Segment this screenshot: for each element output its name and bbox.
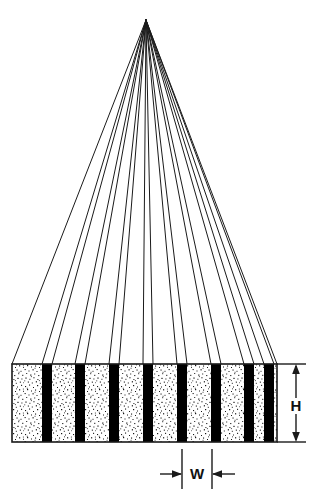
height-arrowhead-up bbox=[292, 364, 300, 374]
ray-line bbox=[146, 20, 277, 364]
ray-line bbox=[146, 20, 254, 364]
dark-stripe bbox=[211, 364, 221, 442]
dark-stripe bbox=[109, 364, 119, 442]
ray-line bbox=[146, 20, 211, 364]
width-dimension: W bbox=[160, 449, 235, 489]
ray-line bbox=[75, 20, 146, 364]
width-arrowhead-left bbox=[212, 470, 222, 477]
dark-stripe bbox=[244, 364, 254, 442]
dark-stripe bbox=[75, 364, 85, 442]
width-dimension-label: W bbox=[190, 465, 205, 482]
ray-line bbox=[146, 20, 177, 364]
ray-line bbox=[146, 20, 244, 364]
dark-stripe bbox=[143, 364, 153, 442]
height-dimension-label: H bbox=[291, 397, 302, 414]
ray-line bbox=[52, 20, 146, 364]
convergent-ray-fan bbox=[12, 20, 277, 364]
height-dimension: H bbox=[277, 364, 306, 442]
height-arrowhead-down bbox=[292, 432, 300, 442]
ray-line bbox=[146, 20, 264, 364]
ray-line bbox=[109, 20, 146, 364]
width-arrowhead-right bbox=[172, 470, 182, 477]
diagram-canvas: H W bbox=[0, 0, 330, 504]
technical-diagram: H W bbox=[0, 0, 330, 504]
ray-line bbox=[119, 20, 146, 364]
dark-stripe bbox=[177, 364, 187, 442]
striped-bar bbox=[12, 364, 277, 442]
ray-line bbox=[143, 20, 146, 364]
ray-line bbox=[12, 20, 146, 364]
dark-stripe bbox=[264, 364, 274, 442]
dark-stripe bbox=[42, 364, 52, 442]
